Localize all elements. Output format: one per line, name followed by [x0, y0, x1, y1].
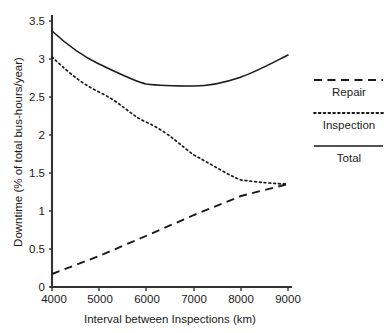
chart-series [52, 31, 288, 274]
y-tick-label-3-5: 3.5 [29, 15, 45, 27]
y-tick-label-1: 1 [39, 205, 45, 217]
chart-legend: Repair Inspection Total [314, 80, 383, 164]
series-line-inspection [52, 57, 288, 184]
x-tick-label-8000: 8000 [228, 293, 254, 305]
legend-item-inspection[interactable]: Inspection [314, 113, 383, 131]
chart-figure: 0 0.5 1 1.5 2 2.5 3 3.5 4000 5000 6000 7… [0, 0, 389, 333]
chart-axes [51, 16, 291, 287]
x-tick-labels: 4000 5000 6000 7000 8000 9000 [41, 293, 301, 305]
legend-label-inspection: Inspection [323, 119, 375, 131]
y-tick-label-3: 3 [39, 53, 45, 65]
x-tick-label-4000: 4000 [41, 293, 67, 305]
x-tick-label-9000: 9000 [275, 293, 301, 305]
x-tick-label-5000: 5000 [87, 293, 113, 305]
x-tick-label-7000: 7000 [181, 293, 207, 305]
chart-canvas: 0 0.5 1 1.5 2 2.5 3 3.5 4000 5000 6000 7… [0, 0, 389, 333]
legend-item-total[interactable]: Total [314, 146, 383, 164]
legend-label-total: Total [337, 152, 361, 164]
y-tick-label-0: 0 [39, 281, 45, 293]
x-axis-title: Interval between Inspections (km) [84, 313, 256, 325]
y-tick-labels: 0 0.5 1 1.5 2 2.5 3 3.5 [29, 15, 45, 293]
y-tick-label-0-5: 0.5 [29, 243, 45, 255]
y-axis-title: Downtime (% of total bus-hours/year) [12, 57, 24, 247]
y-tick-label-1-5: 1.5 [29, 167, 45, 179]
y-tick-label-2-5: 2.5 [29, 91, 45, 103]
series-line-total [52, 31, 288, 86]
series-line-repair [52, 184, 288, 274]
x-tick-label-6000: 6000 [134, 293, 160, 305]
legend-label-repair: Repair [332, 86, 366, 98]
legend-item-repair[interactable]: Repair [314, 80, 383, 98]
y-tick-label-2: 2 [39, 129, 45, 141]
